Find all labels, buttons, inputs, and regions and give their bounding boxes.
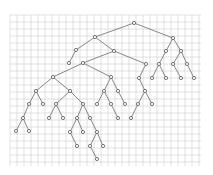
tree-node — [164, 76, 167, 79]
tree-node — [88, 116, 91, 119]
tree-node — [81, 61, 84, 64]
tree-node — [101, 144, 104, 147]
tree-edge — [69, 50, 76, 63]
tree-node — [67, 61, 70, 64]
tree-node — [51, 75, 54, 78]
tree-node — [21, 116, 24, 119]
tree-node — [150, 76, 153, 79]
tree-node — [179, 49, 182, 52]
tree-edge — [53, 77, 70, 91]
tree-node — [54, 102, 57, 105]
tree-edge — [29, 91, 36, 104]
tree-edge — [70, 91, 83, 104]
tree-node — [81, 102, 84, 105]
tree-node — [116, 89, 119, 92]
tree-edge — [104, 91, 111, 104]
tree-node — [143, 89, 146, 92]
tree-nodes — [14, 21, 195, 160]
tree-edge — [111, 77, 118, 91]
tree-node — [95, 157, 98, 160]
tree-node — [95, 102, 98, 105]
tree-node — [112, 49, 115, 52]
tree-node — [95, 130, 98, 133]
tree-node — [81, 130, 84, 133]
tree-node — [109, 102, 112, 105]
tree-node — [192, 76, 195, 79]
tree-node — [88, 144, 91, 147]
tree-node — [68, 89, 71, 92]
tree-node — [41, 102, 44, 105]
tree-node — [164, 49, 167, 52]
tree-node — [185, 62, 188, 65]
tree-edge — [114, 51, 146, 64]
tree-node — [102, 89, 105, 92]
tree-node — [129, 116, 132, 119]
tree-node — [171, 36, 174, 39]
tree-edge — [53, 63, 83, 77]
tree-node — [34, 89, 37, 92]
tree-node — [75, 116, 78, 119]
tree-diagram-canvas — [0, 0, 213, 175]
tree-node — [150, 102, 153, 105]
tree-node — [93, 35, 96, 38]
tree-node — [179, 76, 182, 79]
tree-edge — [118, 91, 125, 104]
tree-node — [171, 62, 174, 65]
tree-node — [27, 129, 30, 132]
tree-edge — [95, 37, 114, 51]
tree-node — [144, 62, 147, 65]
tree-node — [109, 75, 112, 78]
tree-edge — [173, 38, 181, 51]
tree-edge — [104, 77, 111, 91]
tree-edge — [97, 91, 104, 104]
tree-edge — [145, 91, 152, 104]
tree-node — [136, 102, 139, 105]
tree-node — [137, 76, 140, 79]
tree-edge — [159, 51, 166, 64]
tree-node — [14, 129, 17, 132]
tree-node — [116, 116, 119, 119]
tree-node — [74, 48, 77, 51]
tree-edge — [166, 38, 173, 51]
tree-edge — [139, 78, 145, 91]
tree-node — [157, 62, 160, 65]
tree-node — [123, 102, 126, 105]
tree-node — [68, 130, 71, 133]
tree-edge — [36, 77, 53, 91]
tree-edge — [181, 51, 187, 64]
tree-edge — [138, 91, 145, 104]
tree-edge — [76, 37, 95, 50]
tree-node — [75, 144, 78, 147]
tree-node — [61, 116, 64, 119]
tree-edge — [36, 91, 43, 104]
tree-node — [47, 116, 50, 119]
tree-node — [27, 102, 30, 105]
tree-edge — [56, 91, 70, 104]
tree-edge — [173, 51, 181, 64]
tree-root-node — [132, 21, 135, 24]
